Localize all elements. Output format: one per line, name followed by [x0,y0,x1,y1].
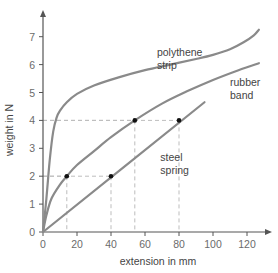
data-point-marker [133,118,138,123]
force-extension-chart: 02040608010012001234567 polythenestripru… [0,0,278,273]
x-tick-label: 20 [71,238,83,250]
data-point-marker [65,174,70,179]
curve-polythene-strip [43,30,259,232]
y-tick-label: 6 [29,59,35,71]
data-point-marker [177,118,182,123]
curves [43,30,259,232]
x-tick-label: 0 [40,238,46,250]
x-axis-arrow-icon [265,229,272,235]
y-tick-label: 7 [29,31,35,43]
x-axis-title: extension in mm [120,255,197,267]
y-tick-label: 5 [29,87,35,99]
curve-label-rubber-band: rubberband [230,76,261,101]
y-tick-label: 3 [29,142,35,154]
y-tick-label: 4 [29,114,35,126]
x-tick-label: 120 [238,238,256,250]
x-tick-label: 80 [173,238,185,250]
y-axis-arrow-icon [40,10,46,17]
curve-label-steel-spring: steelspring [160,151,189,176]
data-point-marker [109,174,114,179]
y-axis-title: weight in N [3,104,15,157]
curve-labels: polythenestriprubberbandsteelspring [157,46,261,176]
x-tick-label: 60 [139,238,151,250]
x-tick-label: 40 [105,238,117,250]
y-tick-label: 0 [29,226,35,238]
y-tick-label: 1 [29,198,35,210]
y-tick-label: 2 [29,170,35,182]
x-tick-label: 100 [204,238,222,250]
